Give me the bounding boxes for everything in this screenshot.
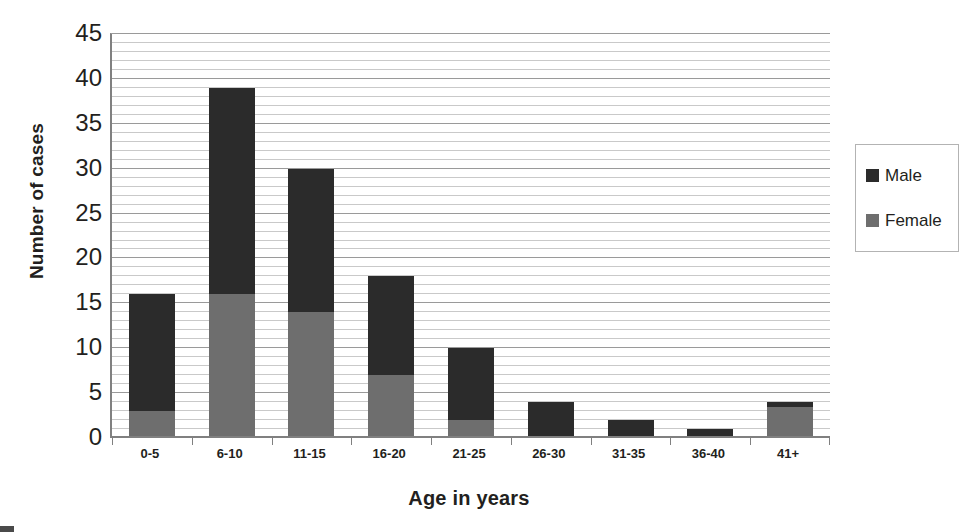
x-axis-title: Age in years [110,487,828,510]
y-axis-tick-label: 20 [46,245,102,269]
x-axis-tick-mark [511,438,512,445]
x-axis-tick-label: 21-25 [452,447,485,460]
bar-group [129,294,175,438]
y-axis-tick-label: 30 [46,156,102,180]
bar-segment-male [767,402,813,406]
x-axis-tick-marks [112,438,830,445]
x-axis-tick-mark [112,438,113,445]
y-axis-title: Number of cases [26,101,48,301]
x-axis-tick-label: 16-20 [373,447,406,460]
bar-group [767,402,813,438]
y-axis-tick-label: 5 [46,380,102,404]
bar-group [209,88,255,438]
bar-segment-female [767,407,813,438]
y-axis-tick-label: 15 [46,290,102,314]
x-axis-tick-label: 36-40 [692,447,725,460]
x-axis-tick-labels: 0-56-1011-1516-2021-2526-3031-3536-4041+ [110,447,828,471]
y-axis-tick-label: 35 [46,111,102,135]
legend-label-female: Female [885,212,942,229]
bar-segment-male [129,294,175,411]
legend-item-female: Female [866,212,942,229]
x-axis-tick-mark [750,438,751,445]
bar-segment-male [368,276,414,375]
x-axis-tick-mark [591,438,592,445]
bar-segment-female [209,294,255,438]
bar-group [528,402,574,438]
x-axis-tick-mark [272,438,273,445]
x-axis-tick-label: 6-10 [217,447,243,460]
x-axis-tick-mark [829,438,830,445]
bar-group [368,276,414,438]
bar-segment-male [209,88,255,294]
bar-segment-female [129,411,175,438]
bar-segment-male [448,348,494,420]
y-axis-tick-label: 40 [46,66,102,90]
x-axis-tick-mark [670,438,671,445]
plot-area [110,33,830,438]
legend-label-male: Male [885,167,922,184]
bar-segment-male [288,169,334,313]
bar-group [448,348,494,438]
y-axis-tick-label: 10 [46,335,102,359]
legend-swatch-female [866,214,879,227]
x-axis-tick-label: 31-35 [612,447,645,460]
x-axis-tick-label: 11-15 [293,447,326,460]
legend-swatch-male [866,169,879,182]
x-axis-tick-mark [431,438,432,445]
bar-segment-male [528,402,574,438]
x-axis-tick-label: 0-5 [140,447,159,460]
x-axis-tick-mark [192,438,193,445]
y-axis-tick-labels: 051015202530354045 [46,33,102,437]
bar-group [288,169,334,438]
x-axis-tick-mark [351,438,352,445]
bar-segment-female [368,375,414,438]
bar-chart: Number of cases 051015202530354045 0-56-… [0,0,969,532]
chart-legend: Male Female [855,144,959,252]
y-axis-tick-label: 0 [46,425,102,449]
y-axis-tick-label: 45 [46,21,102,45]
x-axis-tick-label: 26-30 [532,447,565,460]
y-axis-tick-label: 25 [46,201,102,225]
x-axis-tick-label: 41+ [777,447,799,460]
bars-layer [112,34,830,438]
page-edge-artifact [0,526,14,532]
bar-segment-female [288,312,334,438]
legend-item-male: Male [866,167,922,184]
